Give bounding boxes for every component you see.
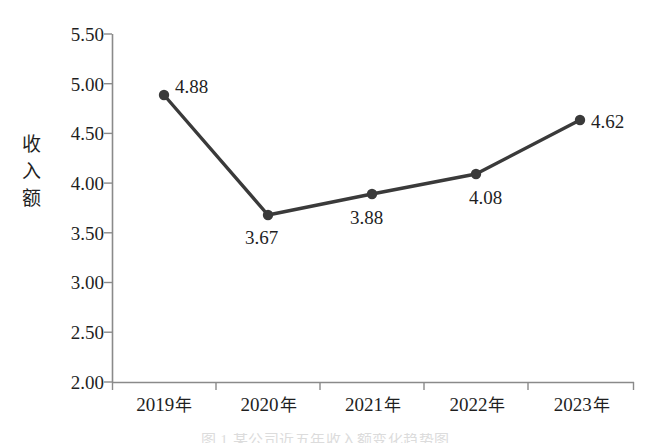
x-tick-unit: 年 bbox=[488, 396, 505, 415]
x-tick-year: 2020 bbox=[241, 394, 279, 415]
line-chart-figure: 图 1 2019—2023 年营业收入情况 收 入 额 5.50 5.00 4.… bbox=[0, 0, 650, 443]
data-point-marker[interactable] bbox=[575, 115, 585, 125]
x-tick-unit: 年 bbox=[384, 396, 401, 415]
x-tick-year: 2021 bbox=[345, 394, 383, 415]
x-tick-year: 2022 bbox=[449, 394, 487, 415]
data-point-marker[interactable] bbox=[263, 210, 273, 220]
x-tick-unit: 年 bbox=[280, 396, 297, 415]
data-point-marker[interactable] bbox=[471, 169, 481, 179]
data-point-marker[interactable] bbox=[367, 189, 377, 199]
x-tick-label: 2021年 bbox=[321, 391, 425, 421]
plot-area bbox=[0, 0, 650, 443]
x-tick-label: 2022年 bbox=[425, 391, 529, 421]
x-tick-label: 2019年 bbox=[112, 391, 216, 421]
x-tick-year: 2019 bbox=[136, 394, 174, 415]
x-tick-label: 2023年 bbox=[530, 391, 634, 421]
x-tick-label: 2020年 bbox=[216, 391, 320, 421]
data-point-label: 4.08 bbox=[469, 188, 502, 207]
data-point-marker[interactable] bbox=[159, 90, 169, 100]
x-axis-tick-labels: 2019年 2020年 2021年 2022年 2023年 bbox=[112, 391, 634, 421]
x-tick-unit: 年 bbox=[593, 396, 610, 415]
data-point-label: 4.62 bbox=[591, 112, 624, 131]
series-markers bbox=[159, 90, 585, 220]
y-axis-ticks bbox=[104, 34, 112, 382]
data-point-label: 3.88 bbox=[350, 208, 383, 227]
x-tick-year: 2023 bbox=[554, 394, 592, 415]
data-point-label: 3.67 bbox=[245, 228, 278, 247]
data-point-label: 4.88 bbox=[175, 77, 208, 96]
x-tick-unit: 年 bbox=[175, 396, 192, 415]
